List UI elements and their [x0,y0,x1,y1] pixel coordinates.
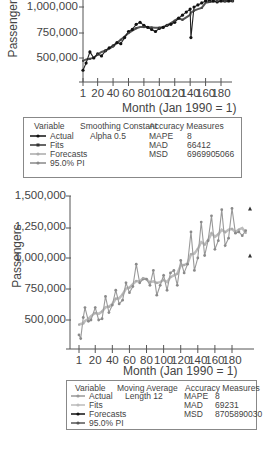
bottom-y-tick: 1,000,000 [15,251,66,263]
bottom-y-tick: 1,500,000 [15,189,66,201]
legend-item-pi: 95.0% PI [89,418,124,428]
bottom-legend: Variable Moving Average Accuracy Measure… [66,380,257,430]
x-tick-label: 1 [76,354,82,366]
measure-msd-label: MSD [184,409,203,419]
x-tick-label: 20 [89,354,102,366]
measure-msd-value: 8705890030 [215,409,262,419]
bottom-y-tick: 1,250,000 [15,220,66,232]
bottom-x-axis-title: Month (Jan 1990 = 1) [123,364,237,378]
bottom-y-tick: 750,000 [24,282,66,294]
bottom-y-tick: 500,000 [24,313,66,325]
x-tick-label: 40 [106,354,119,366]
legend-param-value: Length 12 [125,391,163,401]
